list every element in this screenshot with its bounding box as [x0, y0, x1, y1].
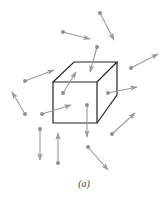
- molecule-dot: [23, 79, 27, 83]
- molecule-arrow: [90, 45, 99, 72]
- molecule-dot: [56, 161, 60, 165]
- velocity-arrow: [88, 147, 108, 170]
- molecule-dot: [40, 112, 44, 116]
- molecule-dot: [129, 66, 133, 70]
- molecule-dot: [106, 91, 110, 95]
- molecule-arrow: [110, 113, 135, 136]
- molecule-arrow: [56, 133, 60, 165]
- velocity-arrow: [25, 70, 54, 81]
- molecule-dot: [86, 145, 90, 149]
- molecule-dot: [61, 91, 65, 95]
- cube-top-face: [53, 62, 117, 82]
- molecule-dot: [23, 112, 27, 116]
- velocity-arrow: [131, 54, 158, 68]
- caption-label: (a): [78, 178, 90, 189]
- molecule-arrow: [98, 11, 114, 40]
- figure-caption: (a): [0, 178, 168, 189]
- molecule-arrow: [129, 54, 158, 70]
- molecule-dot: [110, 132, 114, 136]
- molecule-arrow: [106, 87, 137, 95]
- molecule-arrow: [61, 30, 90, 39]
- velocity-arrow: [112, 113, 135, 134]
- velocity-arrow: [108, 87, 137, 93]
- molecule-arrow: [38, 127, 42, 160]
- velocity-arrow: [90, 47, 97, 72]
- molecule-arrow: [23, 70, 54, 83]
- molecule-velocity-arrows: [12, 11, 158, 170]
- molecule-arrow: [61, 72, 76, 95]
- molecule-arrow: [40, 105, 71, 116]
- velocity-arrow: [63, 32, 90, 39]
- molecule-dot: [98, 11, 102, 15]
- molecule-arrow: [86, 145, 108, 170]
- cube-front-face: [53, 82, 97, 123]
- molecule-arrow: [85, 103, 89, 137]
- velocity-arrow: [12, 92, 25, 114]
- molecule-dot: [85, 103, 89, 107]
- molecule-arrow: [12, 92, 27, 116]
- molecule-dot: [61, 30, 65, 34]
- velocity-arrow: [100, 13, 114, 40]
- gas-molecules-box-diagram: [0, 0, 168, 199]
- molecule-dot: [38, 127, 42, 131]
- velocity-arrow: [42, 105, 71, 114]
- molecule-dot: [95, 45, 99, 49]
